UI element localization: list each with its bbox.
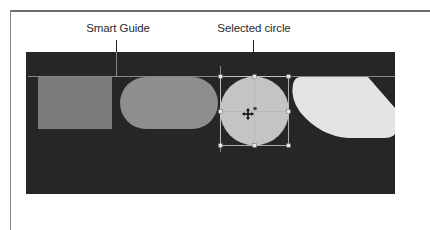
- handle-middle-right: [287, 110, 291, 114]
- square-shape[interactable]: [38, 77, 112, 129]
- handle-top-middle: [253, 75, 257, 79]
- handle-top-left: [219, 75, 223, 79]
- center-point-icon: [253, 107, 257, 111]
- handle-top-right: [287, 75, 291, 79]
- handle-middle-left: [219, 110, 223, 114]
- handle-bottom-left: [219, 144, 223, 148]
- rounded-rectangle-shape[interactable]: [120, 77, 218, 129]
- handle-bottom-right: [287, 144, 291, 148]
- leaf-shape[interactable]: [292, 77, 395, 138]
- handle-bottom-middle: [253, 144, 257, 148]
